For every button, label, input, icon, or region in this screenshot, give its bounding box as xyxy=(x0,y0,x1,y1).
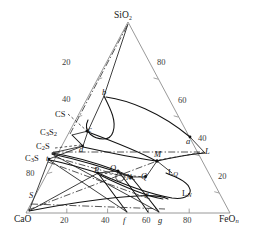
dashdot-sio2-to-c3s2 xyxy=(70,26,127,134)
bottom-axis-tick-40: 40 xyxy=(101,216,110,225)
point-label-n: N xyxy=(126,173,132,182)
point-label-t: t xyxy=(46,154,48,163)
point-label-g: g xyxy=(158,216,162,225)
vertex-label-feon: FeOn xyxy=(219,215,239,225)
liquid-label-ln: LN xyxy=(182,189,192,199)
point-label-p: P xyxy=(94,166,99,175)
point-label-o: O xyxy=(110,164,116,173)
point-label-f: f xyxy=(123,216,125,225)
bottom-axis-tick-20: 20 xyxy=(60,216,69,225)
left-axis-tick-40: 40 xyxy=(62,95,71,104)
right-axis-tick-60: 60 xyxy=(178,96,187,105)
vertex-label-cao: CaO xyxy=(14,215,31,225)
bottom-axis-tick-60: 60 xyxy=(142,216,151,225)
point-marker-O xyxy=(117,170,120,173)
point-label-e: e xyxy=(145,190,149,199)
curve-d-to-M xyxy=(83,147,156,161)
point-label-d: d xyxy=(79,145,83,154)
curve-M-to-L xyxy=(157,153,205,161)
point-label-s: S xyxy=(29,191,33,200)
left-axis-tick-20: 20 xyxy=(62,58,71,67)
curve-c-to-mid xyxy=(88,132,156,161)
point-marker-M xyxy=(155,159,158,162)
point-label-m: M xyxy=(154,150,161,159)
liquid-label-lq: LQ xyxy=(168,168,178,178)
curve-c2s-to-N xyxy=(52,154,131,177)
bottom-axis-tick-80: 80 xyxy=(183,216,192,225)
point-label-a: a xyxy=(186,137,190,146)
vertex-label-sio2: SiO₂ xyxy=(114,11,132,21)
diagram-canvas xyxy=(0,0,256,249)
phase-label-c3s2: C3S2 xyxy=(40,128,57,138)
ternary-phase-diagram: SiO₂ CaO FeOn 20 40 80 80 60 40 20 20 40… xyxy=(0,0,256,249)
point-label-b: b xyxy=(102,88,106,97)
dash-dot-conjugation-lines xyxy=(28,26,200,210)
left-axis-tick-80: 80 xyxy=(26,169,35,178)
phase-label-c3s: C3S xyxy=(25,154,39,164)
point-label-c: c xyxy=(88,125,92,134)
point-label-q: Q xyxy=(141,172,147,181)
phase-label-c2s: C2S xyxy=(36,142,50,152)
right-axis-tick-20: 20 xyxy=(218,172,227,181)
point-label-l: L xyxy=(205,147,210,156)
right-axis-tick-40: 40 xyxy=(198,134,207,143)
phase-label-cs: CS xyxy=(55,110,65,119)
right-axis-tick-80: 80 xyxy=(157,58,166,67)
